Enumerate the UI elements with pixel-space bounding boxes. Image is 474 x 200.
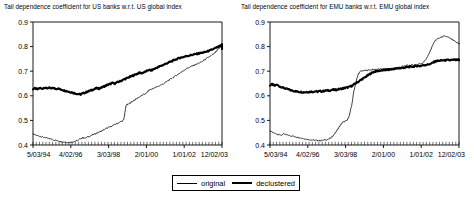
legend-entry-declustered: declustered (232, 179, 295, 188)
svg-text:12/02/03: 12/02/03 (438, 151, 465, 158)
legend-entry-original: original (177, 179, 225, 188)
svg-text:12/02/03: 12/02/03 (201, 151, 228, 158)
svg-text:1/01/02: 1/01/02 (173, 151, 196, 158)
svg-text:1/01/02: 1/01/02 (410, 151, 433, 158)
chart-legend: original declustered (172, 175, 300, 191)
legend-swatch-original-icon (177, 183, 197, 184)
legend-label-original: original (201, 179, 225, 188)
svg-text:0.8: 0.8 (18, 43, 28, 50)
svg-text:3/03/98: 3/03/98 (97, 151, 120, 158)
svg-text:3/03/98: 3/03/98 (334, 151, 357, 158)
chart-panels: Tail dependence coefficient for US banks… (0, 0, 474, 165)
svg-text:4/02/96: 4/02/96 (296, 151, 319, 158)
legend-swatch-declustered-icon (232, 182, 252, 184)
svg-text:0.7: 0.7 (18, 68, 28, 75)
svg-text:4/02/96: 4/02/96 (59, 151, 82, 158)
svg-text:0.9: 0.9 (18, 19, 28, 26)
panel-us-banks: Tail dependence coefficient for US banks… (0, 0, 237, 165)
svg-text:2/01/00: 2/01/00 (372, 151, 395, 158)
svg-text:5/03/94: 5/03/94 (27, 151, 50, 158)
svg-text:0.9: 0.9 (255, 19, 265, 26)
legend-label-declustered: declustered (256, 179, 295, 188)
svg-text:0.6: 0.6 (255, 92, 265, 99)
plot-area-us-banks: 0.40.50.60.70.80.95/03/944/02/963/03/982… (0, 0, 237, 165)
panel-emu-banks: Tail dependence coefficient for EMU bank… (237, 0, 474, 165)
svg-text:0.4: 0.4 (18, 142, 28, 149)
svg-text:0.8: 0.8 (255, 43, 265, 50)
plot-area-emu-banks: 0.40.50.60.70.80.95/03/944/02/963/03/982… (237, 0, 474, 165)
svg-text:5/03/94: 5/03/94 (264, 151, 287, 158)
svg-text:0.7: 0.7 (255, 68, 265, 75)
legend-wrapper: original declustered (0, 165, 474, 200)
svg-text:2/01/00: 2/01/00 (135, 151, 158, 158)
figure-root: Tail dependence coefficient for US banks… (0, 0, 474, 200)
svg-text:0.5: 0.5 (18, 117, 28, 124)
svg-text:0.4: 0.4 (255, 142, 265, 149)
svg-text:0.6: 0.6 (18, 92, 28, 99)
svg-text:0.5: 0.5 (255, 117, 265, 124)
